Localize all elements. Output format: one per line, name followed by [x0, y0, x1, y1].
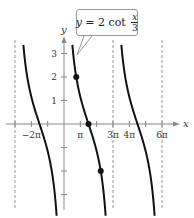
callout-pointer [77, 36, 92, 55]
x-tick-label: 4π [123, 130, 135, 140]
data-point [85, 121, 91, 127]
data-point [73, 74, 79, 80]
x-axis-label: x [183, 118, 189, 129]
x-tick-label: π [77, 130, 83, 140]
callout-fraction: x 3 [131, 12, 138, 33]
tick-labels: xy−2ππ3π4π6π123 [22, 24, 189, 140]
y-tick-label: 3 [51, 49, 57, 59]
y-axis-arrow [62, 36, 67, 43]
x-tick-label: −2π [22, 130, 41, 140]
fraction-numerator: x [131, 12, 138, 23]
x-axis-arrow [173, 122, 180, 127]
data-point [98, 168, 104, 174]
y-tick-label: 2 [51, 72, 57, 82]
axes [6, 36, 180, 210]
function-callout: y = 2 cot x 3 [76, 9, 138, 36]
x-tick-label: 6π [156, 130, 168, 140]
fraction-denominator: 3 [132, 23, 138, 33]
y-tick-label: 1 [51, 96, 57, 106]
y-axis-label: y [60, 24, 67, 35]
x-tick-label: 3π [107, 130, 119, 140]
callout-eq: = 2 cot [82, 16, 129, 29]
